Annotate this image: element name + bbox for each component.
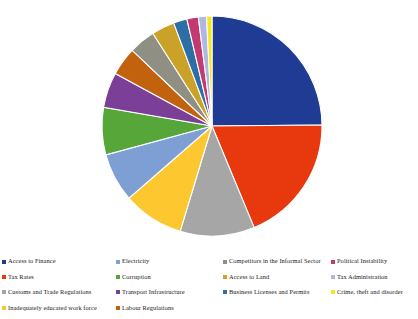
legend-item-labour-regulations[interactable]: Labour Regulations	[116, 305, 223, 311]
legend-item-label: Labour Regulations	[122, 305, 174, 311]
legend-swatch-icon	[223, 275, 227, 279]
legend-item-customs-and-trade-regulations[interactable]: Customs and Trade Regulations	[2, 289, 116, 295]
pie-plot-area	[0, 0, 418, 250]
legend-item-crime-theft-and-disorder[interactable]: Crime, theft and disorder	[331, 289, 418, 295]
legend-swatch-icon	[116, 290, 120, 294]
legend-item-label: Competitors in the Informal Sector	[229, 258, 321, 264]
legend-swatch-icon	[116, 306, 120, 310]
legend-item-label: Crime, theft and disorder	[337, 289, 403, 295]
legend-item-inadequately-educated-work-force[interactable]: Inadequately educated work force	[2, 305, 116, 311]
legend-swatch-icon	[331, 260, 335, 264]
legend-item-access-to-finance[interactable]: Access to Finance	[2, 258, 116, 264]
pie-svg	[0, 0, 418, 250]
legend-swatch-icon	[223, 290, 227, 294]
legend-item-label: Business Licenses and Permits	[229, 289, 310, 295]
chart-legend: Access to FinanceElectricityCompetitors …	[0, 250, 418, 319]
legend-item-label: Inadequately educated work force	[8, 305, 97, 311]
legend-swatch-icon	[331, 290, 335, 294]
legend-item-transport-infrastructure[interactable]: Transport Infrastructure	[116, 289, 223, 295]
legend-swatch-icon	[2, 290, 6, 294]
legend-swatch-icon	[2, 275, 6, 279]
pie-slice-group	[102, 16, 322, 236]
pie-chart-figure: Access to FinanceElectricityCompetitors …	[0, 0, 418, 319]
pie-slice[interactable]	[212, 16, 322, 126]
legend-item-tax-administration[interactable]: Tax Administration	[331, 274, 418, 280]
legend-swatch-icon	[116, 275, 120, 279]
legend-item-label: Corruption	[122, 274, 151, 280]
legend-item-tax-rates[interactable]: Tax Rates	[2, 274, 116, 280]
legend-item-political-instability[interactable]: Political Instability	[331, 258, 418, 264]
legend-item-label: Electricity	[122, 258, 149, 264]
legend-swatch-icon	[2, 306, 6, 310]
legend-item-competitors-in-the-informal-sector[interactable]: Competitors in the Informal Sector	[223, 258, 331, 264]
legend-grid: Access to FinanceElectricityCompetitors …	[2, 254, 416, 316]
legend-item-label: Transport Infrastructure	[122, 289, 185, 295]
legend-item-access-to-land[interactable]: Access to Land	[223, 274, 331, 280]
legend-item-label: Political Instability	[337, 258, 387, 264]
legend-item-empty	[331, 306, 418, 310]
legend-item-electricity[interactable]: Electricity	[116, 258, 223, 264]
legend-item-corruption[interactable]: Corruption	[116, 274, 223, 280]
legend-item-label: Customs and Trade Regulations	[8, 289, 91, 295]
legend-swatch-icon	[223, 260, 227, 264]
legend-swatch-icon	[331, 275, 335, 279]
legend-swatch-icon	[116, 260, 120, 264]
legend-item-label: Access to Land	[229, 274, 269, 280]
legend-item-label: Access to Finance	[8, 258, 56, 264]
legend-item-business-licenses-and-permits[interactable]: Business Licenses and Permits	[223, 289, 331, 295]
legend-item-label: Tax Rates	[8, 274, 34, 280]
legend-item-label: Tax Administration	[337, 274, 388, 280]
legend-item-empty	[223, 306, 331, 310]
legend-swatch-icon	[2, 260, 6, 264]
